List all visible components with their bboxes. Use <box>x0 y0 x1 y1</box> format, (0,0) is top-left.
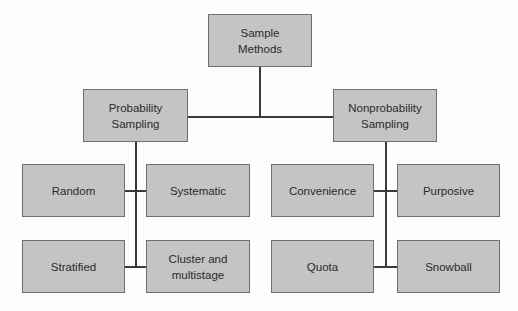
node-random: Random <box>22 164 125 217</box>
node-quota: Quota <box>271 240 374 293</box>
node-label: Sampling <box>361 118 409 130</box>
connector-root-down <box>259 67 261 118</box>
node-label: Systematic <box>170 183 226 199</box>
sampling-methods-diagram: SampleMethods ProbabilitySampling Nonpro… <box>0 0 518 311</box>
connector-prob-row2 <box>125 266 146 268</box>
node-stratified: Stratified <box>22 240 125 293</box>
node-label: Cluster and multistage <box>158 251 238 283</box>
node-label: Sample <box>240 27 279 39</box>
node-cluster-multistage: Cluster and multistage <box>146 240 250 293</box>
node-label: Quota <box>307 259 338 275</box>
node-probability-sampling: ProbabilitySampling <box>83 89 188 142</box>
node-snowball: Snowball <box>397 240 500 293</box>
connector-prob-row1 <box>125 190 146 192</box>
connector-nonprob-row1 <box>374 190 397 192</box>
node-label: Random <box>52 183 95 199</box>
connector-probability-trunk <box>135 142 137 267</box>
node-label: Nonprobability <box>348 102 422 114</box>
node-label: Snowball <box>425 259 472 275</box>
node-label: Convenience <box>289 183 356 199</box>
connector-nonprob-row2 <box>374 266 397 268</box>
node-convenience: Convenience <box>271 164 374 217</box>
node-sample-methods: SampleMethods <box>208 14 312 67</box>
node-nonprobability-sampling: NonprobabilitySampling <box>333 89 437 142</box>
node-systematic: Systematic <box>146 164 250 217</box>
connector-level1-horizontal <box>188 116 333 118</box>
node-label: Probability <box>109 102 163 114</box>
node-label: Stratified <box>51 259 96 275</box>
node-purposive: Purposive <box>397 164 500 217</box>
connector-nonprobability-trunk <box>385 142 387 267</box>
node-label: Purposive <box>423 183 474 199</box>
node-label: Sampling <box>112 118 160 130</box>
node-label: Methods <box>238 43 282 55</box>
